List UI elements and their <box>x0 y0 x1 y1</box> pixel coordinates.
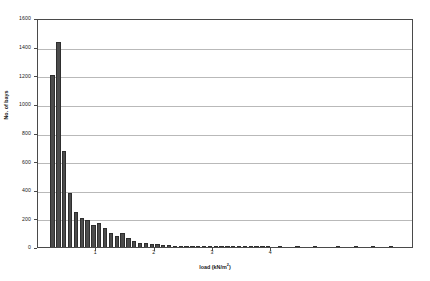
bar <box>214 246 218 247</box>
bar-series <box>38 20 412 247</box>
x-axis-title-text: load (kN/m <box>199 264 227 270</box>
bar <box>389 246 393 247</box>
bar <box>109 233 113 247</box>
bar <box>295 246 299 247</box>
bar <box>132 241 136 247</box>
bar <box>202 246 206 247</box>
bar <box>208 246 212 247</box>
bar <box>243 246 247 247</box>
bar <box>219 246 223 247</box>
y-axis-title: No. of bays <box>3 75 9 135</box>
bar <box>196 246 200 247</box>
bar <box>150 244 154 247</box>
y-axis-tick-label: 600 <box>0 160 31 165</box>
bar <box>231 246 235 247</box>
y-axis-tick-label: 400 <box>0 188 31 193</box>
bar <box>120 233 124 247</box>
bar <box>85 220 89 247</box>
bar <box>313 246 317 247</box>
bar <box>173 246 177 247</box>
histogram-chart: 02004006008001000120014001600 No. of bay… <box>0 0 430 281</box>
x-axis-tick-mark <box>154 248 155 251</box>
bar <box>278 246 282 247</box>
bar <box>266 246 270 247</box>
x-axis-tick-mark <box>270 248 271 251</box>
bar <box>62 151 66 247</box>
bar <box>50 75 54 247</box>
y-axis-tick-label: 1400 <box>0 45 31 50</box>
bar <box>80 218 84 247</box>
bar <box>103 228 107 247</box>
y-axis-tick-label: 200 <box>0 217 31 222</box>
bar <box>190 246 194 247</box>
bar <box>249 246 253 247</box>
x-axis-tick-mark <box>212 248 213 251</box>
bar <box>144 243 148 247</box>
bar <box>354 246 358 247</box>
bar <box>91 225 95 247</box>
bar <box>161 245 165 247</box>
bar <box>336 246 340 247</box>
bar <box>225 246 229 247</box>
bar <box>74 212 78 247</box>
bar <box>237 246 241 247</box>
x-axis-tick-mark <box>95 248 96 251</box>
bar <box>179 246 183 247</box>
bar <box>115 236 119 247</box>
bar <box>97 223 101 247</box>
bar <box>56 42 60 247</box>
bar <box>68 193 72 247</box>
bar <box>184 246 188 247</box>
y-axis-tick-mark <box>34 248 37 249</box>
x-axis-title: load (kN/m2) <box>0 262 430 270</box>
plot-area <box>37 19 413 248</box>
bar <box>167 245 171 247</box>
bar <box>254 246 258 247</box>
bar <box>138 243 142 247</box>
y-axis-tick-label: 1600 <box>0 16 31 21</box>
y-axis-tick-label: 0 <box>0 245 31 250</box>
bar <box>155 244 159 247</box>
bar <box>371 246 375 247</box>
x-axis-title-tail: ) <box>229 264 231 270</box>
bar <box>260 246 264 247</box>
bar <box>126 238 130 247</box>
